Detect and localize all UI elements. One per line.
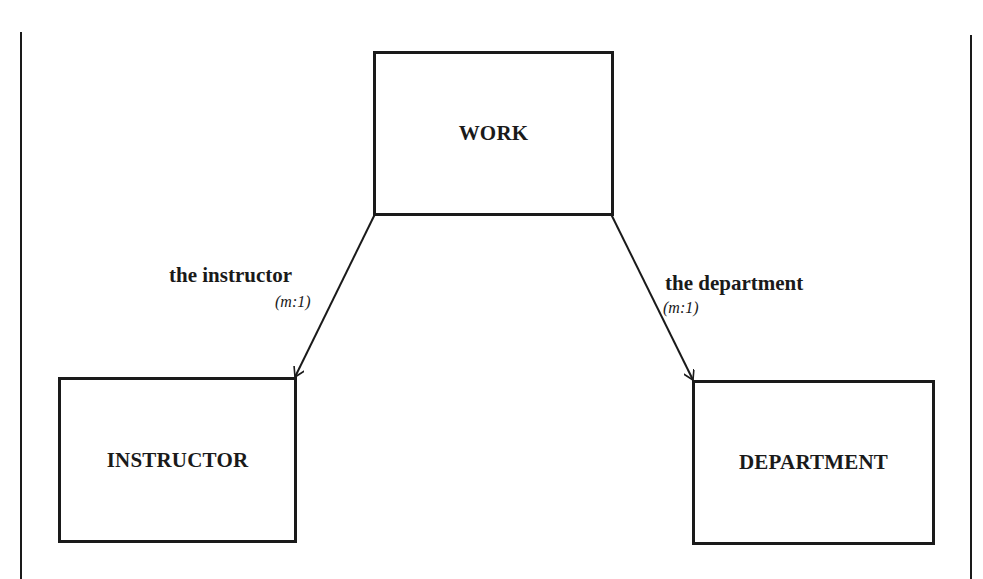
entity-department: DEPARTMENT <box>692 380 935 545</box>
entity-department-label: DEPARTMENT <box>739 450 888 475</box>
relationship-department-cardinality: (m:1) <box>663 299 699 317</box>
relationship-instructor-label: the instructor <box>169 263 292 288</box>
relationship-instructor-cardinality: (m:1) <box>275 293 311 311</box>
entity-work: WORK <box>373 51 614 216</box>
entity-instructor: INSTRUCTOR <box>58 377 297 543</box>
relationship-department-label: the department <box>665 271 803 296</box>
arrow-work-to-department <box>611 214 693 380</box>
entity-work-label: WORK <box>459 121 529 146</box>
entity-instructor-label: INSTRUCTOR <box>107 448 249 473</box>
